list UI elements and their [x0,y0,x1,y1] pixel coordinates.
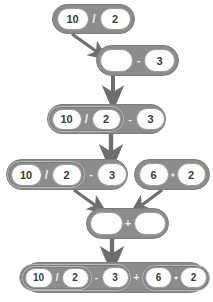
number-slot[interactable]: 10 [52,109,82,130]
arrow-step4b-to-step5 [138,190,162,208]
number-slot[interactable]: 3 [102,267,129,288]
arrow-step1-to-step2 [72,34,100,54]
operator-multiply: * [169,163,177,186]
operator-divide: / [53,268,62,288]
block-step-2[interactable]: - 3 [96,45,179,76]
nested-block-multiply[interactable]: 6 * 2 [142,265,210,291]
nested-block-divide[interactable]: 10 / 2 [22,266,92,290]
number-slot[interactable]: 2 [180,267,207,288]
number-slot[interactable]: 10 [25,268,53,288]
operator-divide: / [42,164,52,186]
number-slot[interactable]: 2 [52,164,82,186]
diagram-canvas: 10 / 2 - 3 10 / 2 - 3 10 / 2 - 3 6 * 2 [0,0,213,302]
block-step-1[interactable]: 10 / 2 [52,4,135,34]
number-slot[interactable]: 2 [177,163,206,186]
operator-minus: - [124,109,136,130]
arrow-step4a-to-step5 [74,190,99,208]
number-slot[interactable]: 10 [11,164,42,186]
number-slot[interactable]: 3 [144,49,175,72]
block-step-5[interactable]: + [86,208,169,239]
number-slot[interactable]: 6 [139,163,169,186]
operator-minus: - [133,49,144,72]
block-step-4b[interactable]: 6 * 2 [134,159,210,190]
operator-minus: - [92,268,102,288]
operator-multiply: * [172,267,180,288]
number-slot[interactable]: 3 [136,108,165,130]
empty-slot[interactable] [90,212,123,235]
number-slot[interactable]: 2 [62,268,89,288]
operator-divide: / [82,109,92,130]
empty-slot[interactable] [100,49,133,72]
number-slot[interactable]: 10 [57,8,89,30]
number-slot[interactable]: 2 [92,109,121,130]
operator-minus: - [85,164,97,186]
operator-plus: + [123,212,134,235]
block-step-3[interactable]: 10 / 2 - 3 [47,104,166,134]
nested-block-divide[interactable]: 10 / 2 [48,106,124,132]
number-slot[interactable]: 6 [145,267,172,288]
nested-block-subtract[interactable]: 10 / 2 - 3 [19,264,131,291]
operator-divide: / [89,8,100,30]
number-slot[interactable]: 3 [97,163,127,186]
block-step-4a[interactable]: 10 / 2 - 3 [6,159,128,190]
operator-plus: + [131,267,142,288]
number-slot[interactable]: 2 [100,8,131,30]
nested-block-divide[interactable]: 10 / 2 [7,161,85,188]
block-step-6[interactable]: 10 / 2 - 3 + 6 * 2 [23,262,206,293]
empty-slot[interactable] [134,212,166,235]
